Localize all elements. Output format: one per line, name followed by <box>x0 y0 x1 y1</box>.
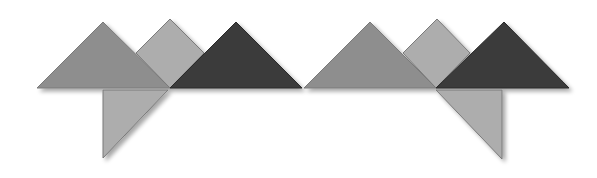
left-figure <box>37 19 302 158</box>
bottom-triangle <box>103 90 168 158</box>
tangram-canvas <box>0 0 597 178</box>
right-figure <box>304 19 569 159</box>
bottom-triangle <box>436 90 502 159</box>
figures-layer <box>37 19 569 159</box>
